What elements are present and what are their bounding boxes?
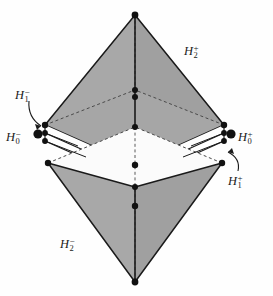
label-h0-minus: H0− bbox=[6, 130, 21, 146]
label-h0-plus: H0+ bbox=[238, 130, 253, 146]
mid-right-dot-a bbox=[221, 130, 227, 136]
upper-left-dot bbox=[42, 122, 48, 128]
upper-back-dot-a bbox=[132, 87, 138, 93]
lower-right-dot bbox=[219, 160, 225, 166]
label-h2-minus-base: H bbox=[60, 237, 69, 251]
leader-h1-plus bbox=[228, 152, 239, 171]
label-h1-plus: H1+ bbox=[228, 174, 243, 190]
label-h0-plus-base: H bbox=[238, 130, 247, 144]
lower-left-dot bbox=[45, 160, 51, 166]
mid-left-dot-a bbox=[42, 130, 48, 136]
label-h1-minus-sup: − bbox=[24, 87, 29, 97]
label-h1-plus-base: H bbox=[228, 174, 237, 188]
label-h1-minus-base: H bbox=[15, 88, 24, 102]
mid-left-dot-b bbox=[42, 138, 48, 144]
top-apex-dot bbox=[132, 12, 139, 19]
mid-right-dot-b bbox=[221, 138, 227, 144]
upper-front-dot bbox=[132, 162, 138, 168]
lower-front-dot bbox=[132, 184, 138, 190]
label-h2-minus-sup: − bbox=[69, 236, 74, 246]
label-h0-plus-sup: + bbox=[247, 129, 252, 139]
upper-back-dot-b bbox=[132, 94, 138, 100]
inner-back-dot bbox=[132, 124, 138, 130]
label-h1-minus: H1− bbox=[15, 88, 30, 104]
label-h2-plus-base: H bbox=[184, 44, 193, 58]
label-h1-plus-sup: + bbox=[237, 173, 242, 183]
bipyramid-figure: H2+ H2− H1− H0− H0+ H1+ bbox=[0, 0, 273, 296]
label-h2-plus-sup: + bbox=[193, 43, 198, 53]
label-h0-minus-sup: − bbox=[15, 129, 20, 139]
leader-h1-minus bbox=[29, 101, 41, 126]
label-h2-plus: H2+ bbox=[184, 44, 199, 60]
label-h2-minus: H2− bbox=[60, 237, 75, 253]
h0-plus-marker-dot bbox=[226, 129, 235, 138]
label-h0-minus-base: H bbox=[6, 130, 15, 144]
h0-minus-marker-dot bbox=[33, 129, 42, 138]
upper-right-dot bbox=[221, 122, 227, 128]
lower-front-dot-b bbox=[132, 203, 138, 209]
bipyramid-drawing bbox=[0, 0, 273, 296]
bottom-apex-dot bbox=[132, 279, 139, 286]
